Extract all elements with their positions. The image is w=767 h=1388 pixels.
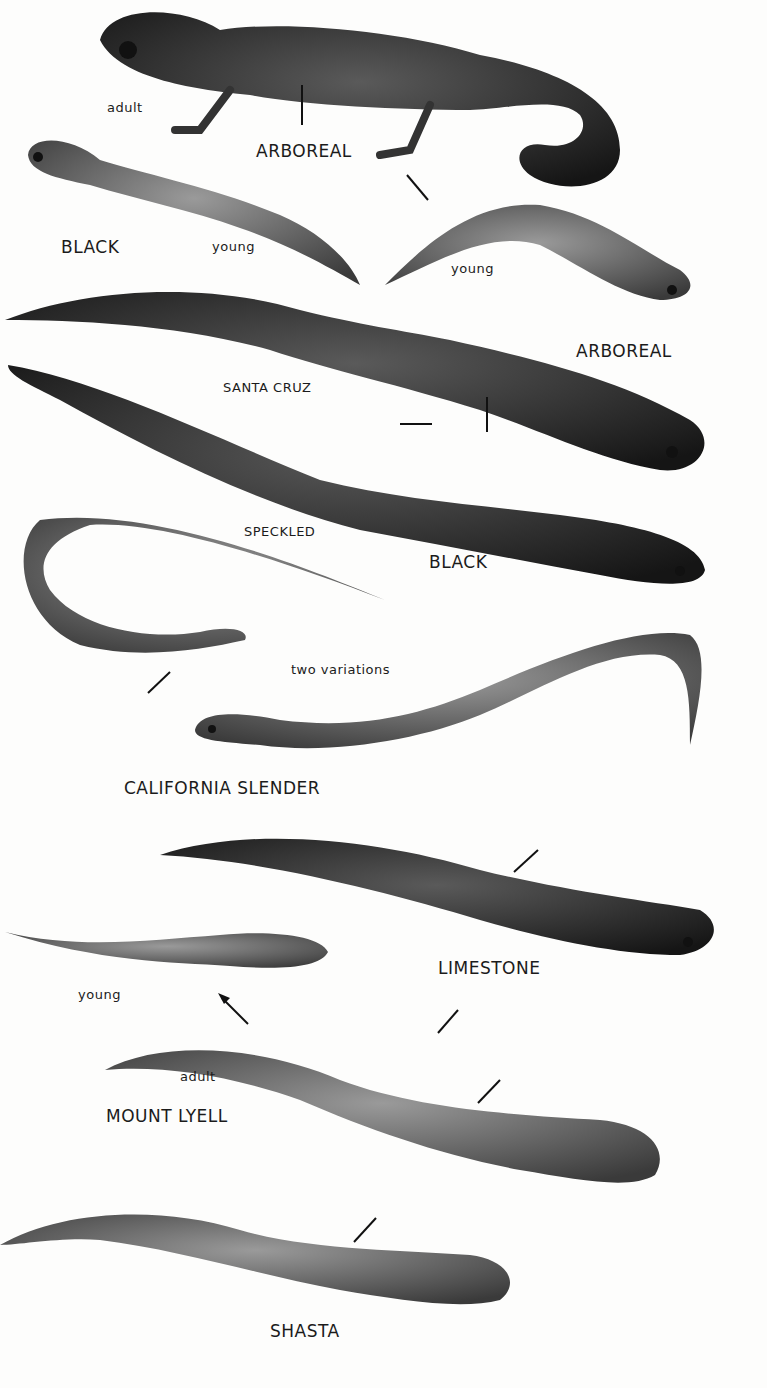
- arboreal-adult-salamander: [100, 12, 620, 200]
- shasta-salamander: [0, 1214, 510, 1304]
- young-salamander: [5, 932, 328, 1024]
- label-black: BLACK: [429, 552, 487, 572]
- salamander-illustrations: [0, 0, 767, 1388]
- label-mount-lyell: MOUNT LYELL: [106, 1106, 228, 1126]
- label-speckled: SPECKLED: [244, 524, 315, 539]
- label-limestone: LIMESTONE: [438, 958, 540, 978]
- label-black-young: BLACK: [61, 237, 119, 257]
- california-slender-salamander-2: [195, 633, 702, 748]
- label-santa-cruz: SANTA CRUZ: [223, 380, 311, 395]
- santa-cruz-salamander: [5, 292, 704, 471]
- label-arboreal-young: ARBOREAL: [576, 341, 672, 361]
- illustration-plate: adult ARBOREAL BLACK young young ARBOREA…: [0, 0, 767, 1388]
- label-adult: adult: [107, 100, 143, 115]
- label-shasta: SHASTA: [270, 1321, 340, 1341]
- label-california-slender: CALIFORNIA SLENDER: [124, 778, 320, 798]
- mount-lyell-salamander: [105, 1010, 660, 1183]
- arboreal-young-salamander: [385, 205, 690, 300]
- label-young-arboreal: young: [451, 261, 494, 276]
- label-adult-mount-lyell: adult: [180, 1069, 216, 1084]
- black-young-salamander: [28, 141, 360, 285]
- label-young-black: young: [212, 239, 255, 254]
- label-young-limestone: young: [78, 987, 121, 1002]
- label-two-variations: two variations: [291, 662, 390, 677]
- label-arboreal-adult: ARBOREAL: [256, 141, 352, 161]
